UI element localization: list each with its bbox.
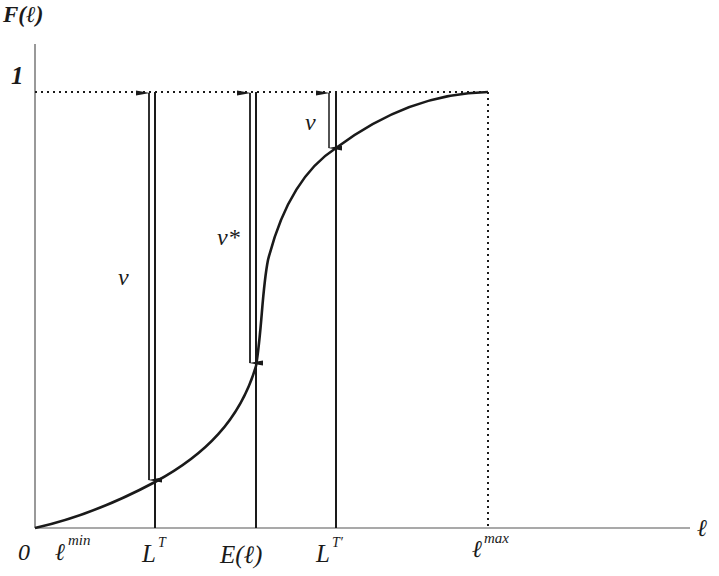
x-tick-e-l: E(ℓ) bbox=[219, 541, 262, 569]
svg-text:ℓ: ℓ bbox=[55, 539, 65, 565]
cdf-curve bbox=[35, 92, 488, 528]
x-tick-lmin: ℓ min bbox=[55, 532, 91, 565]
svg-text:T′: T′ bbox=[332, 535, 344, 550]
x-tick-lt: L T bbox=[141, 535, 167, 567]
origin-label: 0 bbox=[18, 539, 30, 565]
svg-text:T: T bbox=[158, 535, 167, 550]
svg-text:min: min bbox=[68, 532, 91, 548]
svg-text:L: L bbox=[141, 540, 156, 567]
svg-text:ℓ: ℓ bbox=[472, 536, 482, 562]
cdf-diagram: F(ℓ) 1 ν ν* ν 0 ℓ min L T E(ℓ) L T′ ℓ ma… bbox=[0, 0, 719, 576]
x-tick-lmax: ℓ max bbox=[472, 530, 509, 562]
svg-text:L: L bbox=[315, 540, 330, 567]
y-axis-label: F(ℓ) bbox=[2, 2, 44, 27]
nu-star-label: ν* bbox=[217, 224, 240, 250]
svg-text:max: max bbox=[484, 530, 509, 546]
svg-text:E(ℓ): E(ℓ) bbox=[219, 541, 262, 569]
y-tick-one: 1 bbox=[11, 62, 24, 89]
nu-label: ν bbox=[118, 264, 129, 290]
x-axis-label: ℓ bbox=[697, 515, 707, 541]
x-tick-lt-prime: L T′ bbox=[315, 535, 344, 567]
nu-prime-label: ν bbox=[305, 109, 316, 135]
